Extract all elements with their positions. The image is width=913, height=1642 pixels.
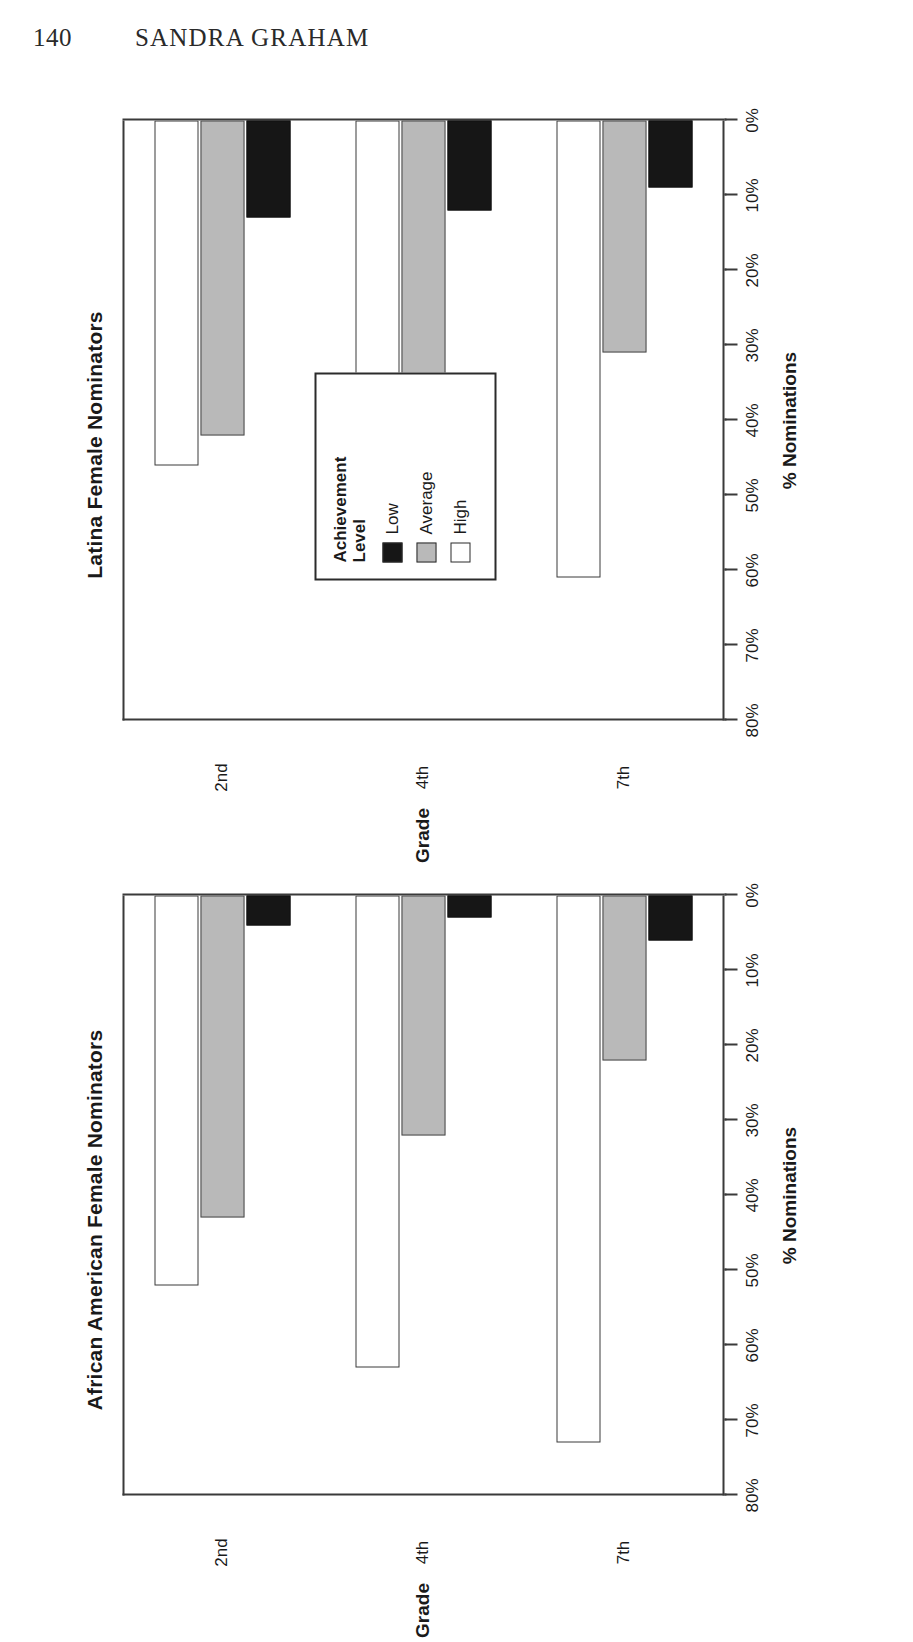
bar-7th-average xyxy=(602,121,646,354)
tick-mark xyxy=(725,119,738,121)
tick-mark xyxy=(725,644,738,646)
plot-frame-top xyxy=(123,896,125,1496)
tick-mark xyxy=(725,1119,738,1121)
bar-4th-average xyxy=(402,896,446,1136)
value-axis-tick-label: 80% xyxy=(743,676,763,766)
running-head-title: SANDRA GRAHAM xyxy=(135,24,369,52)
tick-mark xyxy=(725,194,738,196)
tick-mark xyxy=(725,969,738,971)
bar-4th-low xyxy=(448,121,492,211)
value-axis-title: % Nominations xyxy=(779,896,801,1496)
legend-swatch-gray xyxy=(417,543,437,563)
legend-item-label: High xyxy=(451,500,471,535)
chart-canvas: African American Female Nominators0%10%2… xyxy=(77,853,837,1588)
bar-7th-average xyxy=(602,896,646,1061)
value-axis-title: % Nominations xyxy=(779,121,801,721)
tick-mark xyxy=(725,719,738,721)
bar-2nd-average xyxy=(201,121,245,436)
chart-title: African American Female Nominators xyxy=(83,853,107,1588)
legend-item-label: Average xyxy=(417,471,437,534)
tick-mark xyxy=(725,569,738,571)
tick-mark xyxy=(725,1494,738,1496)
chart-latina-female-nominators: Latina Female Nominators0%10%20%30%40%50… xyxy=(0,55,913,835)
bar-7th-high xyxy=(556,896,600,1444)
category-label-2nd: 2nd xyxy=(212,733,232,823)
legend-title-line2: Level xyxy=(350,383,369,563)
page-number: 140 xyxy=(33,24,72,52)
category-label-2nd: 2nd xyxy=(212,1508,232,1598)
value-axis-tick-label: 80% xyxy=(743,1451,763,1541)
tick-mark xyxy=(725,894,738,896)
legend-item-label: Low xyxy=(383,503,403,534)
legend-title-line1: Achievement xyxy=(331,383,350,563)
tick-mark xyxy=(725,1194,738,1196)
bar-2nd-low xyxy=(247,121,291,219)
bar-2nd-average xyxy=(201,896,245,1219)
bar-7th-low xyxy=(648,896,692,941)
tick-mark xyxy=(725,419,738,421)
bar-2nd-low xyxy=(247,896,291,926)
legend-swatch-white xyxy=(451,543,471,563)
chart-title: Latina Female Nominators xyxy=(83,78,107,813)
legend-item-low: Low xyxy=(383,503,403,562)
tick-mark xyxy=(725,1344,738,1346)
bar-4th-low xyxy=(448,896,492,919)
legend-swatch-black xyxy=(383,543,403,563)
tick-mark xyxy=(725,1044,738,1046)
legend-title: AchievementLevel xyxy=(331,383,370,563)
chart-african-american-female-nominators: African American Female Nominators0%10%2… xyxy=(0,830,913,1610)
tick-mark xyxy=(725,494,738,496)
category-label-7th: 7th xyxy=(613,733,633,823)
legend-item-high: High xyxy=(451,500,471,563)
bar-4th-high xyxy=(356,896,400,1369)
chart-canvas: Latina Female Nominators0%10%20%30%40%50… xyxy=(77,78,837,813)
tick-mark xyxy=(725,1419,738,1421)
category-label-7th: 7th xyxy=(613,1508,633,1598)
legend: AchievementLevelLowAverageHigh xyxy=(315,373,497,581)
legend-item-average: Average xyxy=(417,471,437,562)
bar-7th-low xyxy=(648,121,692,189)
bar-7th-high xyxy=(556,121,600,579)
tick-mark xyxy=(725,269,738,271)
category-axis-title: Grade xyxy=(412,1551,434,1642)
bar-2nd-high xyxy=(155,896,199,1286)
plot-frame-top xyxy=(123,121,125,721)
bar-2nd-high xyxy=(155,121,199,466)
tick-mark xyxy=(725,344,738,346)
tick-mark xyxy=(725,1269,738,1271)
